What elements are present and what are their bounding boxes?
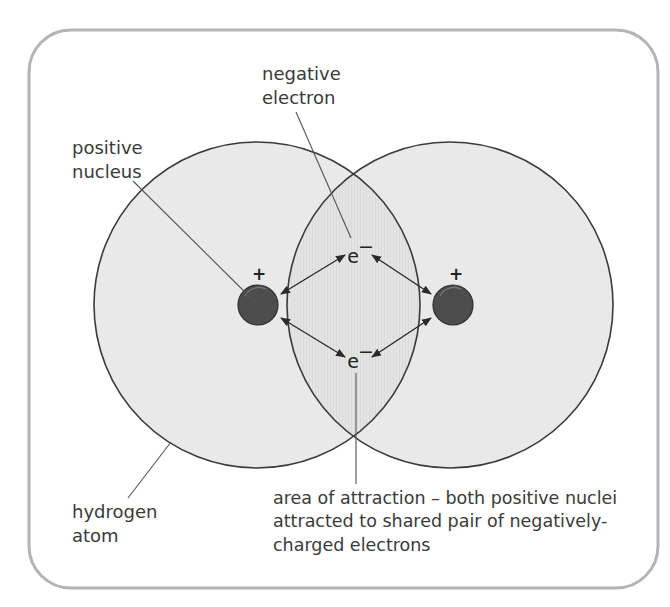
- svg-text:attracted to shared pair of ne: attracted to shared pair of negatively-: [273, 511, 607, 531]
- svg-text:charged electrons: charged electrons: [273, 535, 430, 555]
- svg-text:hydrogen: hydrogen: [72, 501, 157, 522]
- left-nucleus-charge: +: [252, 264, 266, 284]
- svg-text:−: −: [358, 340, 374, 362]
- svg-text:negative: negative: [262, 63, 341, 84]
- right-nucleus-charge: +: [449, 264, 463, 284]
- right-nucleus: [433, 285, 473, 325]
- svg-text:positive: positive: [72, 137, 143, 158]
- svg-text:−: −: [358, 235, 374, 257]
- svg-text:electron: electron: [262, 87, 336, 108]
- covalent-bond-diagram: + + e − e − negative electron positive n…: [0, 0, 670, 607]
- svg-text:nucleus: nucleus: [72, 161, 142, 182]
- svg-text:atom: atom: [72, 525, 119, 546]
- svg-text:area of attraction – both posi: area of attraction – both positive nucle…: [273, 488, 617, 508]
